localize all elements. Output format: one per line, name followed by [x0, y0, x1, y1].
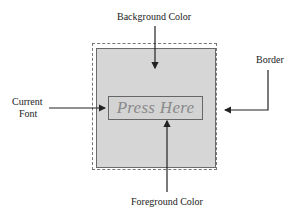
annotation-arrows [0, 0, 296, 213]
border-arrow [225, 70, 268, 110]
